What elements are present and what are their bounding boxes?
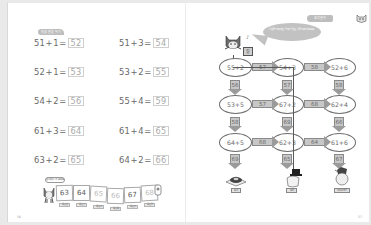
equals-sign: = [144,67,151,77]
addend-b: 2 [53,155,59,165]
section-header-pill-right: 생각 놀이 [307,15,333,22]
addend-b: 1 [53,67,59,77]
addend-a: 53 [119,67,130,77]
down-arrow: 56 [228,80,242,95]
addend-b: 2 [53,96,59,106]
addend-b: 2 [138,155,144,165]
arrow-value: 57 [252,100,272,108]
answer-box[interactable]: 64 [68,126,84,136]
addend-b: 1 [53,38,59,48]
answer-box[interactable]: 65 [153,126,169,136]
arrow-value: 66 [334,117,344,126]
strip-tag: 육십육 [110,207,121,211]
equation-2: 51+3=54 [119,38,169,48]
addend-b: 4 [138,126,144,136]
answer-box[interactable]: 66 [153,155,169,165]
equation-4: 53+2=55 [119,67,169,77]
equals-sign: = [59,96,66,106]
addend-b: 2 [138,67,144,77]
down-arrow: 58 [332,80,346,95]
answer-box[interactable]: 56 [68,96,84,106]
equals-sign: = [144,155,151,165]
strip-tag: 육십사 [76,203,87,207]
maze-node[interactable]: 64+5 [219,133,252,152]
strip-cell: 64 [73,185,90,201]
answer-box[interactable]: 52 [68,38,84,48]
arrow-value: 56 [230,80,240,89]
cat-face-icon [356,13,367,24]
plus-sign: + [131,155,138,165]
addend-a: 61 [119,126,130,136]
answer-box[interactable]: 65 [68,155,84,165]
maze-node[interactable]: 53+5 [219,95,252,114]
down-arrow: 57 [280,80,294,95]
addend-a: 61 [34,126,45,136]
answer-box[interactable]: 59 [153,96,169,106]
equation-3: 52+1=53 [34,67,84,77]
cat-character-icon [223,33,243,53]
arrow-value: 58 [230,117,240,126]
arrow-head-icon [324,61,331,73]
equals-sign: = [59,126,66,136]
equation-10: 64+2=66 [119,155,169,165]
equals-sign: = [144,126,151,136]
arrow-head-icon [228,163,242,169]
arrow-value: 58 [334,80,344,89]
arrow-value: 67 [334,154,344,163]
path-line [293,67,294,184]
down-arrow: 65 [280,154,294,169]
strip-cell: 67 [124,187,142,204]
arrow-value: 68 [304,100,324,108]
equation-5: 54+2=56 [34,96,84,106]
icecream-character-icon [333,166,351,188]
addend-a: 51 [34,38,45,48]
strip-cell[interactable]: 65 [90,186,108,203]
equals-sign: = [59,38,66,48]
answer-box[interactable]: 55 [153,67,169,77]
page-number-left: 56 [17,215,21,219]
equation-7: 61+3=64 [34,126,84,136]
music-note-icon: ♪ [246,34,249,40]
addend-b: 3 [138,38,144,48]
strip-end-icon [154,184,162,196]
cat-character-icon [41,186,57,204]
arrow-value: 68 [252,138,272,146]
equals-sign: = [144,38,151,48]
down-arrow: 69 [228,154,242,169]
addend-a: 52 [34,67,45,77]
addend-b: 3 [53,126,59,136]
arrow-head-icon [272,136,279,148]
addend-b: 4 [138,96,144,106]
arrow-head-icon [280,126,294,132]
strip-tag: 육십삼 [59,203,70,207]
addend-a: 51 [119,38,130,48]
arrow-value: 64 [304,138,324,146]
addend-a: 54 [34,96,45,106]
addend-a: 64 [119,155,130,165]
left-page: 덧셈 연습 하기 51+1=52 51+3=54 52+1=53 53+2=55… [7,3,185,222]
down-arrow: 66 [332,117,346,132]
section-header-pill: 덧셈 연습 하기 [38,29,64,35]
equation-6: 55+4=59 [119,96,169,106]
destination-label: 모자 [286,188,297,193]
strip-cell: 63 [56,185,74,202]
arrow-head-icon [324,98,331,110]
start-sign: 길 [243,47,253,56]
plus-sign: + [46,38,53,48]
down-arrow: 58 [228,117,242,132]
answer-box[interactable]: 54 [153,38,169,48]
page-number-right: 57 [358,215,362,219]
answer-box[interactable]: 53 [68,67,84,77]
donut-plate-icon [225,173,247,187]
addend-a: 63 [34,155,45,165]
strip-speech-bubble: 순서대로 써 보세요 [45,177,65,183]
book-spread: 덧셈 연습 하기 51+1=52 51+3=54 52+1=53 53+2=55… [7,3,369,222]
strip-tag: 육십오 [93,205,104,209]
equation-1: 51+1=52 [34,38,84,48]
plus-sign: + [46,155,53,165]
strip-cell[interactable]: 66 [107,188,125,205]
arrow-head-icon [272,98,279,110]
equals-sign: = [59,67,66,77]
hat-character-icon [283,168,305,188]
arrow-head-icon [332,126,346,132]
